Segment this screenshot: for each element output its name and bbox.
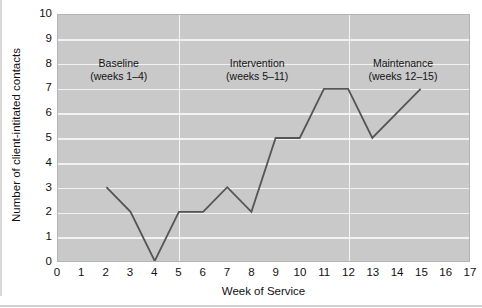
y-tick-label: 5 <box>24 132 52 143</box>
y-tick-label: 1 <box>24 231 52 242</box>
x-axis-tick-labels: 01234567891011121314151617 <box>0 266 482 282</box>
x-tick-label: 14 <box>391 266 404 278</box>
x-tick-label: 0 <box>54 266 60 278</box>
x-tick-label: 8 <box>248 266 254 278</box>
y-tick-label: 8 <box>24 58 52 69</box>
figure-left-border <box>0 0 2 296</box>
x-tick-label: 9 <box>272 266 278 278</box>
chart-figure: Number of client-intitated contacts 0123… <box>0 0 482 308</box>
y-tick-label: 6 <box>24 107 52 118</box>
x-tick-label: 17 <box>464 266 477 278</box>
x-tick-label: 10 <box>294 266 307 278</box>
y-tick-label: 10 <box>24 8 52 19</box>
x-tick-label: 4 <box>151 266 157 278</box>
x-tick-label: 5 <box>175 266 181 278</box>
x-tick-label: 2 <box>102 266 108 278</box>
y-tick-label: 4 <box>24 157 52 168</box>
x-tick-label: 3 <box>127 266 133 278</box>
x-tick-label: 11 <box>318 266 330 278</box>
y-tick-label: 3 <box>24 182 52 193</box>
data-series-line <box>58 15 469 261</box>
x-tick-label: 16 <box>439 266 452 278</box>
plot-area: Baseline(weeks 1–4)Intervention(weeks 5–… <box>57 14 470 262</box>
y-tick-label: 9 <box>24 33 52 44</box>
x-tick-label: 12 <box>342 266 355 278</box>
x-tick-label: 15 <box>415 266 428 278</box>
y-tick-label: 7 <box>24 82 52 93</box>
x-axis-title: Week of Service <box>57 285 470 297</box>
x-tick-label: 7 <box>224 266 230 278</box>
x-tick-label: 1 <box>78 266 84 278</box>
x-tick-label: 6 <box>200 266 206 278</box>
y-axis-title: Number of client-intitated contacts <box>10 20 22 250</box>
y-axis-tick-labels: 012345678910 <box>24 14 52 262</box>
figure-bottom-border <box>0 305 482 307</box>
y-tick-label: 2 <box>24 206 52 217</box>
x-tick-label: 13 <box>366 266 379 278</box>
